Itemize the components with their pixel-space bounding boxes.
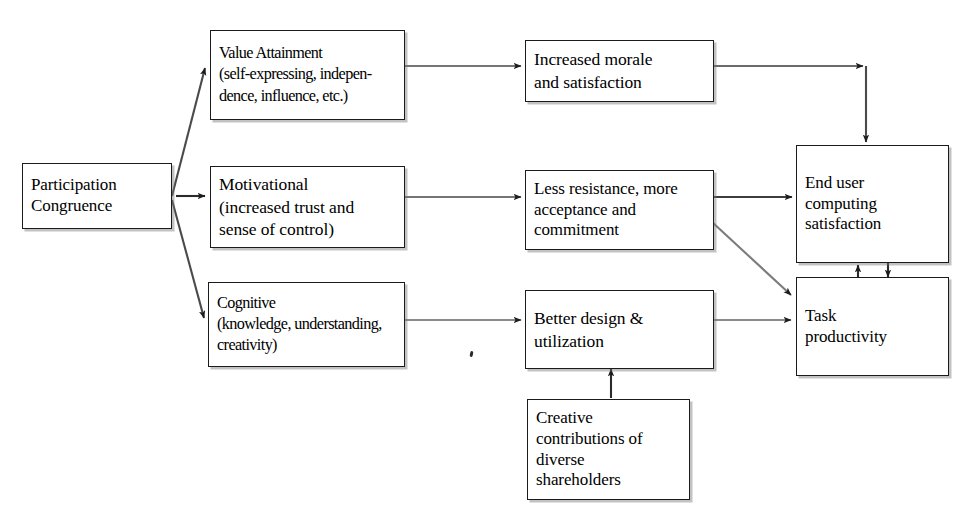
node-label-line: (knowledge, understanding, <box>217 314 397 335</box>
node-label-line: productivity <box>805 327 941 348</box>
diagram-canvas: Participation Congruence Value Attainmen… <box>0 0 977 519</box>
node-better-design[interactable]: Better design & utilization <box>525 290 714 369</box>
node-label-line: computing <box>805 194 941 215</box>
node-label-line: Task <box>805 306 941 327</box>
node-end-user-satisfaction[interactable]: End user computing satisfaction <box>796 145 949 263</box>
node-label-line: acceptance and <box>534 200 706 221</box>
node-label-line: dence, influence, etc.) <box>219 86 397 107</box>
node-label-line: Value Attainment <box>219 43 397 64</box>
node-label-line: shareholders <box>536 470 682 491</box>
node-label-line: Participation <box>31 175 164 196</box>
node-label-line: contributions of <box>536 429 682 450</box>
node-label-line: commitment <box>534 220 706 241</box>
node-less-resistance[interactable]: Less resistance, more acceptance and com… <box>525 170 714 250</box>
node-label-line: Motivational <box>219 173 397 196</box>
edge-participation-to-cognitive <box>172 200 204 318</box>
node-label-line: End user <box>805 173 941 194</box>
node-creative-contributions[interactable]: Creative contributions of diverse shareh… <box>527 399 690 500</box>
node-label-line: creativity) <box>217 335 397 356</box>
edge-participation-to-value-attainment <box>172 68 205 196</box>
node-label-line: diverse <box>536 450 682 471</box>
node-participation-congruence[interactable]: Participation Congruence <box>22 163 172 229</box>
node-cognitive[interactable]: Cognitive (knowledge, understanding, cre… <box>208 282 405 367</box>
node-label-line: Less resistance, more <box>534 179 706 200</box>
edge-less-resistance-to-task-productivity <box>712 222 791 295</box>
node-label-line: Cognitive <box>217 293 397 314</box>
node-value-attainment[interactable]: Value Attainment (self-expressing, indep… <box>210 30 405 120</box>
node-label-line: satisfaction <box>805 214 941 235</box>
node-label-line: Congruence <box>31 196 164 217</box>
node-label-line: (increased trust and <box>219 196 397 219</box>
node-label-line: and satisfaction <box>534 71 706 94</box>
node-label-line: (self-expressing, indepen- <box>219 64 397 85</box>
node-label-line: Better design & <box>534 307 706 330</box>
node-label-line: utilization <box>534 330 706 353</box>
node-task-productivity[interactable]: Task productivity <box>796 277 949 376</box>
node-motivational[interactable]: Motivational (increased trust and sense … <box>210 166 405 248</box>
node-label-line: Creative <box>536 408 682 429</box>
node-label-line: Increased morale <box>534 48 706 71</box>
scan-artifact-speck <box>469 351 473 357</box>
node-increased-morale[interactable]: Increased morale and satisfaction <box>525 40 714 102</box>
node-label-line: sense of control) <box>219 218 397 241</box>
